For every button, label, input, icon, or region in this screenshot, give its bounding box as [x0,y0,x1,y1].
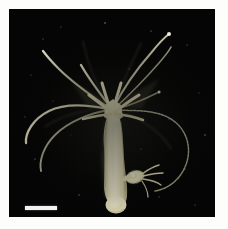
debris-speck [198,92,199,93]
bud-highlight [131,173,135,177]
hydra-specimen [9,9,215,217]
debris-speck [186,44,187,45]
hydra-figure: Photomicrograph of a Hydra polyp on a bl… [0,0,228,229]
debris-speck [150,30,151,31]
tentacle-3 [41,110,109,171]
debris-speck [42,38,43,39]
micrograph-plate [9,9,215,217]
debris-speck [53,101,54,102]
debris-speck [141,149,142,150]
debris-speck [78,194,79,195]
body-column [104,115,128,207]
debris-speck [60,26,61,27]
debris-speck [129,69,130,70]
debris-speck [158,196,159,197]
hydra-drawing [9,9,215,217]
debris-speck [24,116,25,117]
debris-speck [30,74,31,75]
debris-speck [194,204,195,205]
debris-speck [184,168,185,169]
tentacle-1 [26,106,108,144]
debris-speck [169,119,170,120]
bud-tentacles [142,165,163,197]
debris-speck [71,135,72,136]
tentacle-tip-bulb [167,32,171,36]
debris-speck [104,22,106,24]
scale-bar [25,206,57,210]
debris-speck [204,134,206,136]
debris-speck [34,158,35,159]
debris-speck [120,204,121,205]
bud [124,165,163,197]
basal-disc [106,197,127,214]
tentacle-tip-bulb-2 [157,90,160,93]
